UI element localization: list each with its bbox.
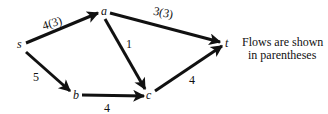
edge-b-c <box>82 95 144 96</box>
edge-label-c-t: 4 <box>189 73 195 87</box>
caption-line-1: Flows are shown <box>242 35 323 49</box>
caption-line-2: in parentheses <box>248 48 317 62</box>
edge-a-c <box>105 19 145 89</box>
edge-label-a-t: 3(3) <box>152 4 174 22</box>
edge-label-s-b: 5 <box>33 70 39 84</box>
edge-label-b-c: 4 <box>104 101 110 114</box>
node-a: a <box>101 4 107 18</box>
edge-label-a-c: 1 <box>126 37 132 51</box>
edge-s-a <box>26 13 98 43</box>
node-s: s <box>17 37 22 51</box>
node-c: c <box>146 88 152 102</box>
node-b: b <box>73 88 79 102</box>
flow-network-diagram: s a b c t 4(3) 3(3) 1 5 4 4 Flows are sh… <box>0 0 328 114</box>
node-t: t <box>225 36 229 50</box>
